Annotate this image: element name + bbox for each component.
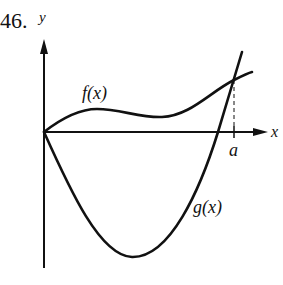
- x-axis-arrow-icon: [253, 128, 268, 136]
- graph: [0, 0, 283, 285]
- y-axis-arrow-icon: [40, 39, 48, 54]
- g-curve: [44, 52, 242, 257]
